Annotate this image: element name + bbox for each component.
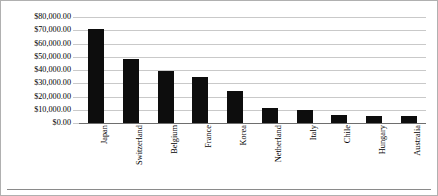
bar [401,116,417,123]
bottom-divider [7,189,431,190]
bar [123,59,139,123]
y-tick-label: $10,000.00 [34,106,71,114]
bar [88,29,104,123]
gridline [79,17,426,18]
bar [158,71,174,123]
gridline [79,30,426,31]
x-tick-label: Hungary [378,125,387,187]
x-tick-label: France [204,125,213,187]
axis-baseline [79,123,426,124]
x-tick-label: Italy [309,125,318,187]
bar [227,91,243,123]
bar [331,115,347,123]
y-tick-label: $80,000.00 [34,13,71,21]
y-tick-label: $50,000.00 [34,53,71,61]
bar [192,77,208,123]
x-tick-label: Switzerland [135,125,144,187]
x-axis: JapanSwitzerlandBelgiumFranceKoreaNether… [79,125,426,191]
x-tick-label: Belgium [170,125,179,187]
y-tick-label: $60,000.00 [34,40,71,48]
bar [262,108,278,123]
bar-chart: $80,000.00$70,000.00$60,000.00$50,000.00… [0,0,438,196]
x-tick-label: Korea [239,125,248,187]
y-tick-label: $40,000.00 [34,66,71,74]
y-tick-label: $0.00 [53,119,71,127]
x-tick-label: Netherland [274,125,283,187]
bar [366,116,382,123]
x-tick-label: Japan [100,125,109,187]
y-tick-label: $70,000.00 [34,26,71,34]
y-tick-label: $30,000.00 [34,79,71,87]
bar [297,110,313,123]
gridline [79,57,426,58]
plot-area [79,17,426,123]
x-tick-label: Australia [413,125,422,187]
x-tick-label: Chile [343,125,352,187]
y-tick-label: $20,000.00 [34,93,71,101]
gridline [79,44,426,45]
y-axis: $80,000.00$70,000.00$60,000.00$50,000.00… [1,1,75,141]
